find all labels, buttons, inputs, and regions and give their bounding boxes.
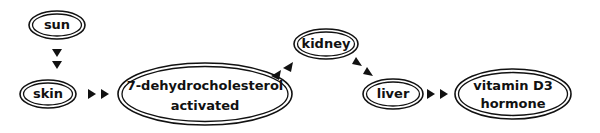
node-vitd3-label-line1: vitamin D3 [473,78,553,93]
node-skin: skin [20,80,76,108]
node-dehydro-label-line1: 7-dehydrocholesterol [127,78,284,93]
node-7-dehydrocholesterol: 7-dehydrocholesterol activated [118,63,292,125]
arrow-skin-to-dehydro [88,89,109,99]
arrow-liver-to-vitd3 [427,89,448,99]
node-skin-label: skin [33,86,63,101]
node-sun: sun [29,11,85,39]
node-kidney: kidney [294,29,358,59]
node-liver: liver [363,79,423,109]
vitamin-d-diagram: sun skin 7-dehydrocholesterol activated … [0,0,600,133]
node-vitd3-label-line2: hormone [480,96,545,111]
node-kidney-label: kidney [302,36,351,51]
node-dehydro-label-line2: activated [171,98,240,113]
node-sun-label: sun [44,17,70,32]
node-liver-label: liver [377,86,410,101]
arrow-kidney-to-liver [352,57,373,76]
node-vitamin-d3-hormone: vitamin D3 hormone [455,69,571,119]
arrow-sun-to-skin [52,49,62,69]
